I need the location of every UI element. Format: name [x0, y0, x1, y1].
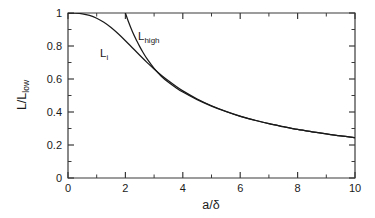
- line-chart: 0246810 00.20.40.60.81 a/δ L/Llow Li Lhi…: [0, 0, 375, 218]
- y-tick-label: 1: [56, 7, 62, 19]
- x-axis-label: a/δ: [202, 198, 219, 212]
- y-tick-label: 0.8: [47, 40, 62, 52]
- x-tick-label: 4: [180, 182, 186, 194]
- x-tick-label: 8: [295, 182, 301, 194]
- x-tick-label: 6: [237, 182, 243, 194]
- y-tick-label: 0.2: [47, 139, 62, 151]
- y-tick-label: 0: [56, 172, 62, 184]
- x-tick-label: 0: [65, 182, 71, 194]
- y-tick-label: 0.4: [47, 106, 62, 118]
- y-tick-label: 0.6: [47, 73, 62, 85]
- x-tick-label: 2: [122, 182, 128, 194]
- chart-figure: 0246810 00.20.40.60.81 a/δ L/Llow Li Lhi…: [0, 0, 375, 218]
- x-tick-label: 10: [349, 182, 361, 194]
